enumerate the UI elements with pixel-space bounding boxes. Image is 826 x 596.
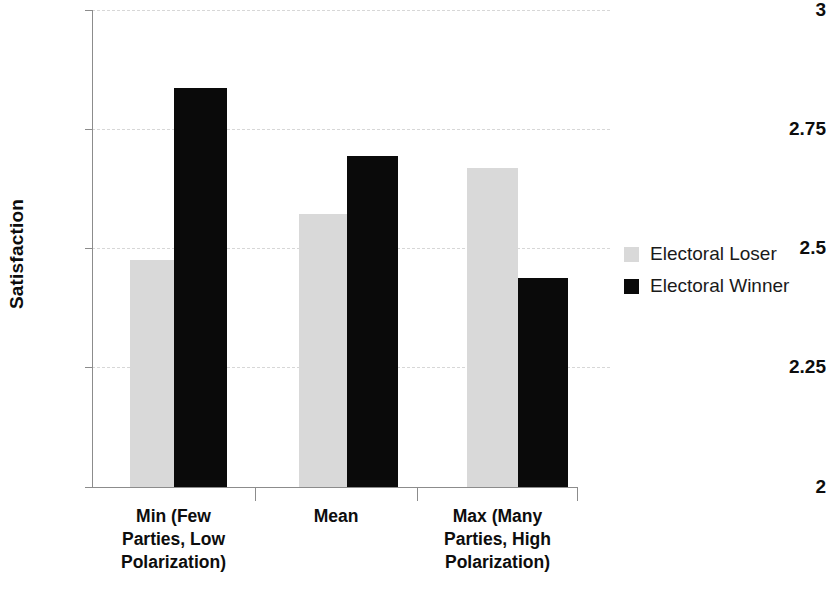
y-tick-3 bbox=[85, 10, 93, 11]
category-label-mean-line1: Mean bbox=[255, 505, 417, 528]
category-label-min-line2: Parties, Low bbox=[92, 528, 255, 551]
y-axis-title: Satisfaction bbox=[6, 174, 28, 334]
y-tick-label-2-75: 2.75 bbox=[748, 118, 826, 140]
loser-swatch-icon bbox=[624, 247, 639, 262]
legend-item-electoral-loser: Electoral Loser bbox=[624, 238, 789, 270]
legend-label-electoral-loser: Electoral Loser bbox=[650, 243, 777, 265]
bar-loser-max bbox=[467, 168, 518, 487]
category-label-max-line2: Parties, High bbox=[417, 528, 578, 551]
bar-winner-min bbox=[174, 88, 227, 487]
legend: Electoral Loser Electoral Winner bbox=[624, 238, 789, 302]
x-separator-2 bbox=[417, 487, 418, 501]
bar-chart: Satisfaction 3 2.75 2.5 2.25 2 Min (Few … bbox=[0, 0, 826, 596]
y-axis-line bbox=[92, 10, 93, 488]
category-label-min: Min (Few Parties, Low Polarization) bbox=[92, 505, 255, 574]
y-tick-label-2-25: 2.25 bbox=[748, 356, 826, 378]
y-tick-label-2: 2 bbox=[748, 476, 826, 498]
category-label-max-line1: Max (Many bbox=[417, 505, 578, 528]
x-axis-line bbox=[92, 487, 578, 488]
category-label-max-line3: Polarization) bbox=[417, 551, 578, 574]
y-tick-2-75 bbox=[85, 129, 93, 130]
category-label-min-line3: Polarization) bbox=[92, 551, 255, 574]
y-tick-2-25 bbox=[85, 367, 93, 368]
legend-label-electoral-winner: Electoral Winner bbox=[650, 275, 789, 297]
bar-winner-max bbox=[518, 278, 568, 487]
bar-loser-mean bbox=[299, 214, 347, 487]
bars-layer bbox=[92, 10, 610, 487]
bar-winner-mean bbox=[347, 156, 398, 487]
x-axis-end-tick bbox=[577, 487, 578, 501]
category-label-mean: Mean bbox=[255, 505, 417, 528]
x-separator-1 bbox=[255, 487, 256, 501]
y-tick-2 bbox=[85, 487, 93, 488]
category-label-min-line1: Min (Few bbox=[92, 505, 255, 528]
y-tick-2-5 bbox=[85, 248, 93, 249]
y-tick-label-3: 3 bbox=[748, 0, 826, 21]
category-label-max: Max (Many Parties, High Polarization) bbox=[417, 505, 578, 574]
legend-item-electoral-winner: Electoral Winner bbox=[624, 270, 789, 302]
winner-swatch-icon bbox=[624, 279, 639, 294]
